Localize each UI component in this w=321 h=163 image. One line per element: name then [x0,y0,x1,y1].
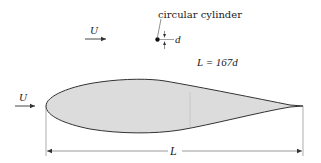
cylinder-leader-line [158,19,162,37]
diameter-label: d [175,33,181,45]
chord-label: L [169,144,177,158]
cylinder-label: circular cylinder [158,9,242,20]
chord-relation-label: L = 167d [196,56,238,68]
freestream-label-left: U [19,91,28,103]
airfoil-shape [46,79,303,133]
diagram-canvas: L U U circular cylinder d L = 167d [0,0,321,163]
circular-cylinder-icon [155,37,159,41]
freestream-label-top: U [90,24,99,36]
